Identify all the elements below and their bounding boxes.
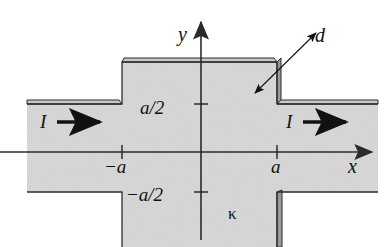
thickness-label: d	[315, 25, 325, 45]
plate-thickness-step-right-lower	[277, 190, 282, 247]
conductivity-label: κ	[228, 205, 237, 222]
tick-label-a-over-2: a/2	[140, 98, 164, 117]
x-axis-label: x	[348, 156, 357, 176]
tick-label-minus-a: −a	[104, 157, 126, 176]
current-label-left: I	[40, 112, 46, 131]
tick-label-minus-a-over-2: −a/2	[126, 185, 163, 204]
plate-face	[27, 62, 378, 247]
conducting-plate-diagram: y x d a/2 −a/2 −a a I I κ	[0, 0, 385, 247]
diagram-canvas	[0, 0, 385, 247]
current-label-right: I	[286, 112, 292, 131]
y-axis-label: y	[178, 24, 187, 44]
tick-label-a: a	[271, 157, 281, 176]
